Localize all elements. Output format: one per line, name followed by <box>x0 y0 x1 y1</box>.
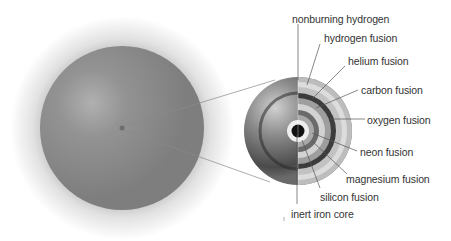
label-magnesium-fusion: magnesium fusion <box>346 173 430 185</box>
label-inert-iron-core: inert iron core <box>291 208 354 220</box>
star-structure-diagram: nonburning hydrogen hydrogen fusion heli… <box>0 0 451 241</box>
star-exterior <box>10 16 234 240</box>
label-helium-fusion: helium fusion <box>348 55 409 67</box>
label-nonburning-hydrogen: nonburning hydrogen <box>292 13 389 25</box>
label-carbon-fusion: carbon fusion <box>361 84 423 96</box>
star-core-dot <box>120 126 125 131</box>
leader-hydrogen-fusion <box>307 44 320 85</box>
star-cutaway <box>244 77 352 185</box>
label-oxygen-fusion: oxygen fusion <box>367 114 431 126</box>
label-hydrogen-fusion: hydrogen fusion <box>324 32 397 44</box>
label-neon-fusion: neon fusion <box>360 146 413 158</box>
label-silicon-fusion: silicon fusion <box>320 191 379 203</box>
